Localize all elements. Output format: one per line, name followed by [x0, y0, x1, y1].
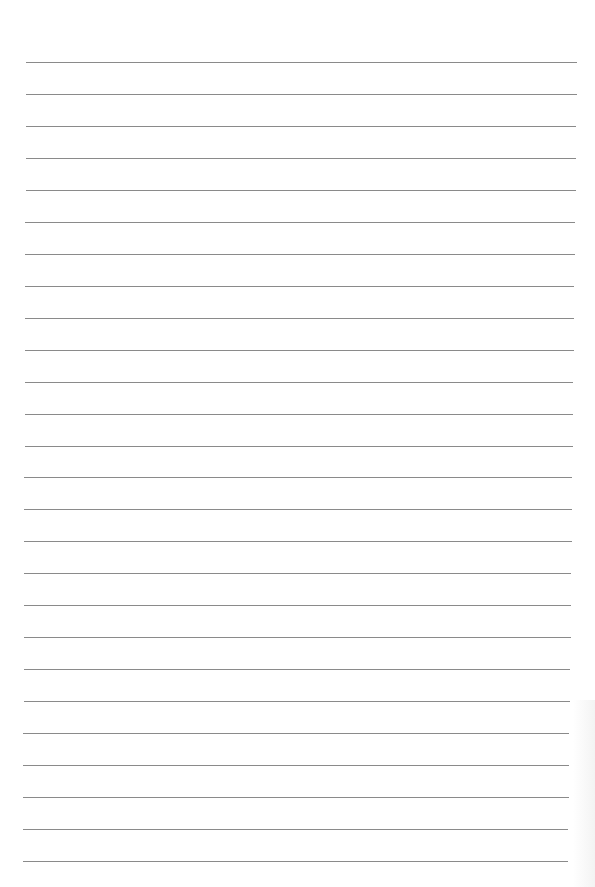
page-edge-shadow — [573, 700, 595, 887]
ruled-line — [24, 669, 570, 670]
ruled-line — [24, 701, 570, 702]
ruled-line — [26, 158, 576, 159]
ruled-line — [25, 254, 575, 255]
ruled-line — [25, 318, 574, 319]
ruled-line — [26, 94, 577, 95]
ruled-line — [24, 541, 571, 542]
ruled-line — [23, 829, 568, 830]
ruled-line — [25, 414, 573, 415]
ruled-line — [25, 286, 574, 287]
ruled-line — [23, 733, 569, 734]
ruled-line — [24, 509, 572, 510]
ruled-line — [25, 350, 574, 351]
ruled-line — [26, 62, 577, 63]
ruled-line — [24, 477, 572, 478]
ruled-line — [26, 126, 577, 127]
ruled-line — [24, 573, 571, 574]
lined-paper-page — [0, 0, 595, 887]
ruled-line — [25, 446, 573, 447]
ruled-line — [25, 222, 575, 223]
ruled-line — [24, 637, 571, 638]
ruled-line — [24, 605, 571, 606]
ruled-line — [26, 190, 576, 191]
ruled-line — [23, 861, 568, 862]
ruled-line — [25, 382, 574, 383]
ruled-line — [23, 765, 569, 766]
ruled-line — [23, 797, 568, 798]
